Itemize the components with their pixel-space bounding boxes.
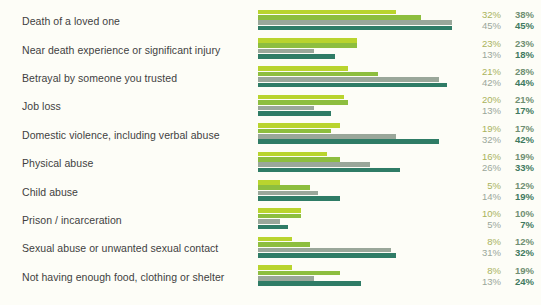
bar-series-3 xyxy=(258,20,452,25)
chart-row: Physical abuse16%19%26%33% xyxy=(0,149,541,177)
bar-series-2 xyxy=(258,185,310,190)
bar-series-1 xyxy=(258,180,280,185)
bar-series-2 xyxy=(258,100,348,105)
bar-series-2 xyxy=(258,43,357,48)
value-label-left-secondary: 45% xyxy=(473,20,501,31)
bar-series-3 xyxy=(258,134,396,139)
bar-series-1 xyxy=(258,38,357,43)
value-label-left: 19% xyxy=(473,123,501,134)
chart-row: Sexual abuse or unwanted sexual contact8… xyxy=(0,234,541,262)
category-label: Domestic violence, including verbal abus… xyxy=(22,129,220,141)
bar-group xyxy=(258,123,473,147)
value-label-pair: 8%19%13%24% xyxy=(473,265,541,289)
bar-series-3 xyxy=(258,191,318,196)
bar-series-3 xyxy=(258,106,314,111)
bar-series-1 xyxy=(258,123,340,128)
value-label-left: 8% xyxy=(473,236,501,247)
value-label-right: 23% xyxy=(504,38,534,49)
bar-group xyxy=(258,236,473,260)
value-label-left: 5% xyxy=(473,180,501,191)
bar-series-3 xyxy=(258,248,391,253)
value-label-right: 12% xyxy=(504,180,534,191)
value-label-left-secondary: 14% xyxy=(473,191,501,202)
bar-series-4 xyxy=(258,139,439,144)
bar-series-2 xyxy=(258,15,421,20)
value-label-right: 19% xyxy=(504,265,534,276)
bar-group xyxy=(258,37,473,61)
chart-row: Near death experience or significant inj… xyxy=(0,35,541,63)
value-label-right: 28% xyxy=(504,66,534,77)
value-label-pair: 21%28%42%44% xyxy=(473,66,541,90)
value-label-pair: 16%19%26%33% xyxy=(473,151,541,175)
bar-series-3 xyxy=(258,162,370,167)
bar-group xyxy=(258,66,473,90)
value-label-right: 21% xyxy=(504,94,534,105)
chart-row: Child abuse5%12%14%19% xyxy=(0,177,541,205)
bar-series-4 xyxy=(258,225,288,230)
category-label: Betrayal by someone you trusted xyxy=(22,72,177,84)
value-label-right-secondary: 42% xyxy=(504,134,534,145)
value-label-left-secondary: 13% xyxy=(473,105,501,116)
bar-series-4 xyxy=(258,111,331,116)
value-label-right-secondary: 44% xyxy=(504,77,534,88)
bar-series-1 xyxy=(258,66,348,71)
value-label-right: 10% xyxy=(504,208,534,219)
value-label-pair: 5%12%14%19% xyxy=(473,180,541,204)
bar-series-3 xyxy=(258,219,280,224)
chart-row: Job loss20%21%13%17% xyxy=(0,92,541,120)
value-label-pair: 32%38%45%45% xyxy=(473,9,541,33)
category-label: Job loss xyxy=(22,100,61,112)
value-label-left: 32% xyxy=(473,9,501,20)
value-label-right-secondary: 19% xyxy=(504,191,534,202)
bar-series-3 xyxy=(258,276,314,281)
category-label: Child abuse xyxy=(22,186,78,198)
value-label-right: 19% xyxy=(504,151,534,162)
category-label: Prison / incarceration xyxy=(22,214,122,226)
category-label: Near death experience or significant inj… xyxy=(22,44,220,56)
value-label-right-secondary: 33% xyxy=(504,162,534,173)
value-label-right-secondary: 17% xyxy=(504,105,534,116)
value-label-right: 38% xyxy=(504,9,534,20)
bar-series-1 xyxy=(258,95,344,100)
bar-series-2 xyxy=(258,214,301,219)
bar-series-4 xyxy=(258,253,396,258)
bar-series-2 xyxy=(258,271,340,276)
bar-series-3 xyxy=(258,77,439,82)
bar-series-4 xyxy=(258,281,361,286)
chart-row: Not having enough food, clothing or shel… xyxy=(0,263,541,291)
bar-group xyxy=(258,94,473,118)
grouped-bar-chart: Death of a loved one32%38%45%45%Near dea… xyxy=(0,0,541,305)
category-label: Not having enough food, clothing or shel… xyxy=(22,271,224,283)
chart-row: Prison / incarceration10%10%5%7% xyxy=(0,206,541,234)
value-label-right-secondary: 7% xyxy=(504,219,534,230)
value-label-left-secondary: 32% xyxy=(473,134,501,145)
chart-row: Betrayal by someone you trusted21%28%42%… xyxy=(0,64,541,92)
value-label-right-secondary: 32% xyxy=(504,247,534,258)
bar-group xyxy=(258,179,473,203)
value-label-right-secondary: 18% xyxy=(504,49,534,60)
value-label-pair: 23%23%13%18% xyxy=(473,38,541,62)
category-label: Death of a loved one xyxy=(22,15,120,27)
bar-series-1 xyxy=(258,152,327,157)
value-label-left-secondary: 42% xyxy=(473,77,501,88)
bar-group xyxy=(258,208,473,232)
value-label-left-secondary: 13% xyxy=(473,49,501,60)
bar-group xyxy=(258,151,473,175)
value-label-left-secondary: 13% xyxy=(473,276,501,287)
bar-series-4 xyxy=(258,54,335,59)
value-label-right-secondary: 24% xyxy=(504,276,534,287)
value-label-left-secondary: 26% xyxy=(473,162,501,173)
bar-series-1 xyxy=(258,237,292,242)
bar-series-1 xyxy=(258,265,292,270)
bar-series-4 xyxy=(258,168,400,173)
bar-series-3 xyxy=(258,49,314,54)
bar-series-1 xyxy=(258,208,301,213)
value-label-left-secondary: 5% xyxy=(473,219,501,230)
bar-series-1 xyxy=(258,10,396,15)
value-label-left: 20% xyxy=(473,94,501,105)
value-label-pair: 19%17%32%42% xyxy=(473,123,541,147)
bar-series-2 xyxy=(258,72,378,77)
category-label: Sexual abuse or unwanted sexual contact xyxy=(22,242,218,254)
value-label-pair: 10%10%5%7% xyxy=(473,208,541,232)
bar-group xyxy=(258,9,473,33)
